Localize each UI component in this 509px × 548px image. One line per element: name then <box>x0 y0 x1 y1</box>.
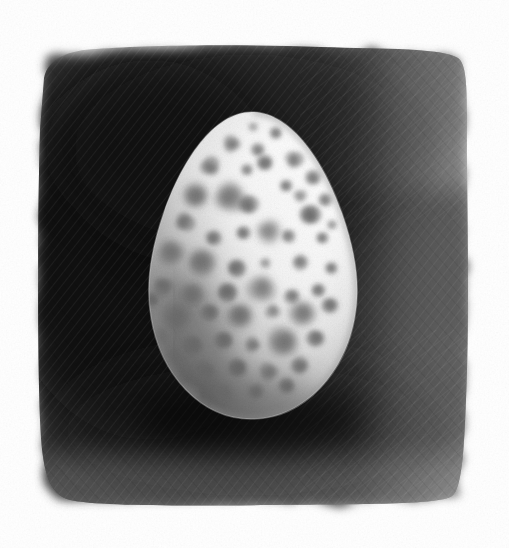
shell-grain <box>130 100 380 430</box>
artwork-canvas: Speckled Egg <box>0 0 509 548</box>
egg-layer <box>0 0 509 548</box>
